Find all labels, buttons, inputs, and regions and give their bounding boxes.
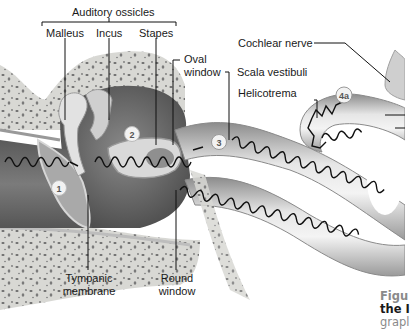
label-cochlear-nerve: Cochlear nerve (238, 37, 313, 49)
label-helicotrema: Helicotrema (238, 87, 297, 99)
svg-text:4a: 4a (339, 91, 350, 101)
svg-text:1: 1 (56, 184, 61, 194)
step-badge-3: 3 (212, 135, 227, 150)
cochlear-apex (300, 94, 405, 152)
label-scala-vestibuli: Scala vestibuli (237, 66, 307, 78)
label-oval-window-2: window (184, 66, 221, 78)
figure-caption-line3: grapl (380, 316, 410, 329)
label-tympanic-membrane-1: Tympanic (64, 272, 114, 284)
step-badge-1: 1 (52, 181, 67, 196)
label-tympanic-membrane-2: membrane (62, 285, 116, 297)
label-incus: Incus (96, 27, 122, 39)
step-badge-2: 2 (125, 127, 140, 142)
label-oval-window-1: Oval (184, 53, 207, 65)
label-stapes: Stapes (139, 27, 173, 39)
temporal-bone-lower (0, 228, 200, 310)
label-malleus: Malleus (46, 27, 84, 39)
step-badge-4a: 4a (336, 87, 352, 103)
label-round-window-1: Round (160, 272, 194, 284)
cochlear-nerve-shape (385, 50, 405, 100)
label-round-window-2: window (158, 285, 196, 297)
svg-text:3: 3 (216, 138, 221, 148)
label-auditory-ossicles: Auditory ossicles (72, 6, 155, 18)
svg-text:2: 2 (129, 130, 134, 140)
